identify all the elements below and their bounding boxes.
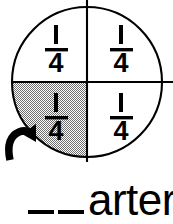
- answer-prompt: arter: [0, 172, 173, 224]
- denominator-four-glyph: 4: [113, 48, 128, 78]
- fraction-circle-figure: 4 4 4 4: [0, 0, 173, 172]
- denominator-four-glyph: 4: [113, 116, 128, 146]
- denominator-four-glyph: 4: [48, 48, 63, 78]
- worksheet-page: 4 4 4 4: [0, 0, 173, 224]
- fraction-label-bottom-right: 4: [110, 93, 133, 146]
- fraction-label-top-left: 4: [45, 25, 68, 78]
- curved-arrow-icon: [9, 124, 36, 160]
- numerator-one-glyph: [119, 25, 123, 44]
- numerator-one-glyph: [54, 93, 58, 112]
- answer-blanks[interactable]: [28, 210, 84, 214]
- word-ending-text: arter: [88, 175, 173, 224]
- denominator-four-glyph: 4: [48, 116, 63, 146]
- numerator-one-glyph: [119, 93, 123, 112]
- numerator-one-glyph: [54, 25, 58, 44]
- fraction-label-top-right: 4: [110, 25, 133, 78]
